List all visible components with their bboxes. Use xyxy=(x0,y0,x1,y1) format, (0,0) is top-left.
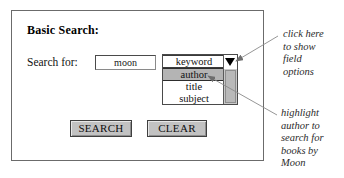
callout-author-option: highlight author to search for books by … xyxy=(281,107,323,170)
callout-line: author to xyxy=(281,120,323,133)
callout-line: options xyxy=(283,66,324,79)
callout-line: click here xyxy=(283,28,324,41)
dropdown-option-keyword[interactable]: keyword xyxy=(163,55,225,68)
callout-line: to show xyxy=(283,41,324,54)
search-for-label: Search for: xyxy=(27,56,78,68)
screenshot-canvas: Basic Search: Search for: keyword author… xyxy=(0,0,344,178)
search-button[interactable]: SEARCH xyxy=(70,120,132,137)
field-select-dropdown[interactable]: keyword author title subject xyxy=(162,54,238,105)
callout-line: Moon xyxy=(281,157,323,170)
callout-dropdown-arrow: click here to show field options xyxy=(283,28,324,78)
search-input[interactable] xyxy=(95,55,156,70)
dropdown-option-list[interactable]: keyword author title subject xyxy=(163,55,225,104)
clear-button[interactable]: CLEAR xyxy=(147,120,207,137)
callout-line: search for xyxy=(281,132,323,145)
dropdown-option-title[interactable]: title xyxy=(163,81,225,93)
scrollbar-thumb[interactable] xyxy=(225,70,236,103)
callout-line: highlight xyxy=(281,107,323,120)
dropdown-arrow-button[interactable] xyxy=(224,55,237,69)
dropdown-option-author[interactable]: author xyxy=(163,68,225,81)
dropdown-scrollbar[interactable] xyxy=(223,55,237,104)
callout-line: field xyxy=(283,53,324,66)
dropdown-option-subject[interactable]: subject xyxy=(163,93,225,105)
page-title: Basic Search: xyxy=(27,23,99,38)
callout-line: books by xyxy=(281,145,323,158)
triangle-down-icon xyxy=(225,58,235,66)
